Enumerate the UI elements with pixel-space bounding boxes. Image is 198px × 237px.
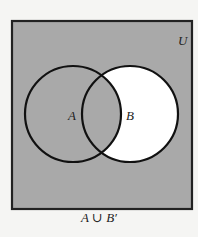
set-b-label: B: [126, 108, 134, 123]
diagram-caption: A ∪ B′: [0, 210, 198, 226]
universe-label: U: [178, 33, 189, 48]
set-a-label: A: [67, 108, 76, 123]
venn-diagram: U A B: [0, 0, 198, 237]
